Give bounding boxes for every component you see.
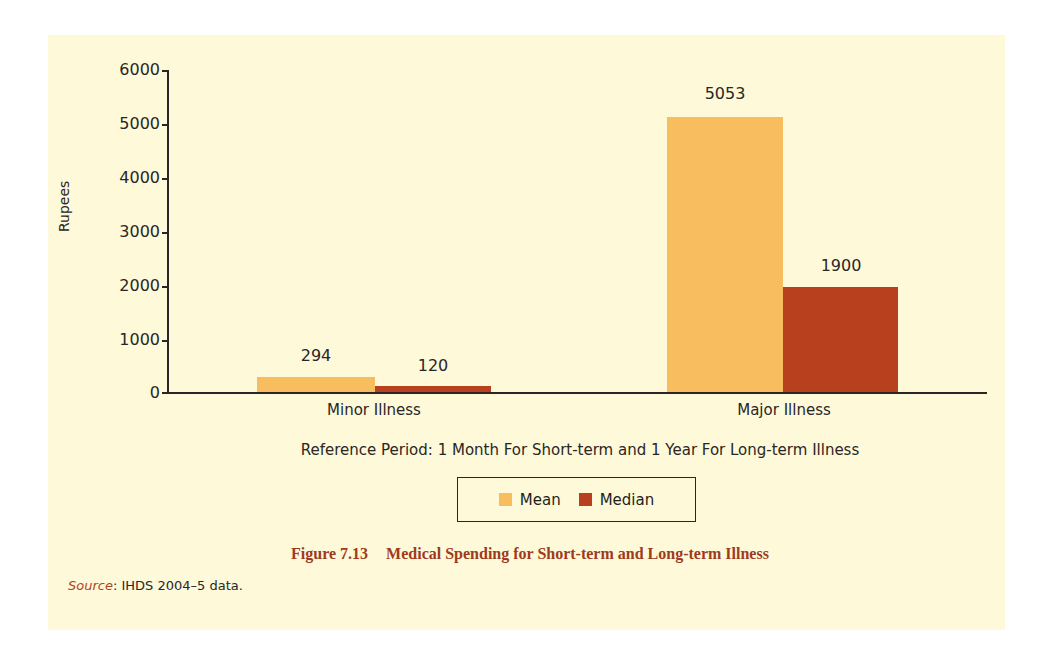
source-note: Source: IHDS 2004–5 data. [68, 578, 243, 593]
y-tick-label: 2000 [100, 277, 160, 295]
y-tick-label: 6000 [100, 61, 160, 79]
bar-major-median [783, 287, 898, 392]
x-axis-line [167, 392, 987, 394]
y-tick-label: 5000 [100, 115, 160, 133]
y-tick-label: 1000 [100, 331, 160, 349]
source-label: Source [68, 578, 113, 593]
y-axis-line [167, 70, 169, 393]
legend: Mean Median [457, 477, 696, 522]
value-label-major-mean: 5053 [665, 84, 785, 103]
legend-item-mean: Mean [499, 491, 561, 509]
figure-caption: Figure 7.13Medical Spending for Short-te… [0, 545, 1060, 563]
bar-major-mean [667, 117, 783, 392]
x-axis-note: Reference Period: 1 Month For Short-term… [200, 441, 960, 459]
legend-label-median: Median [600, 491, 655, 509]
legend-swatch-mean [499, 493, 512, 506]
legend-label-mean: Mean [520, 491, 561, 509]
y-tick-label: 3000 [100, 223, 160, 241]
y-tick-label: 0 [100, 384, 160, 402]
value-label-minor-mean: 294 [256, 346, 376, 365]
y-tick-label: 4000 [100, 169, 160, 187]
y-axis-label: Rupees [56, 181, 72, 232]
x-category-label: Major Illness [684, 401, 884, 419]
source-text: : IHDS 2004–5 data. [113, 578, 243, 593]
figure-number: Figure 7.13 [291, 545, 368, 562]
value-label-major-median: 1900 [781, 256, 901, 275]
bar-minor-mean [257, 377, 375, 392]
x-category-label: Minor Illness [274, 401, 474, 419]
figure-title: Medical Spending for Short-term and Long… [386, 545, 769, 562]
legend-swatch-median [579, 493, 592, 506]
legend-item-median: Median [579, 491, 655, 509]
value-label-minor-median: 120 [373, 356, 493, 375]
